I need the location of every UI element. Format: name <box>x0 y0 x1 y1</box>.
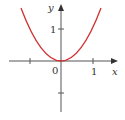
y-tick-label-1: 1 <box>50 24 56 35</box>
y-axis-label: y <box>47 2 54 13</box>
x-tick-label-1: 1 <box>91 66 97 77</box>
x-axis-label: x <box>112 66 118 77</box>
x-axis-arrow-icon <box>111 58 118 64</box>
y-axis-arrow-icon <box>58 4 64 11</box>
origin-label: 0 <box>52 65 58 76</box>
parabola-chart: y 1 0 1 x <box>0 0 125 120</box>
